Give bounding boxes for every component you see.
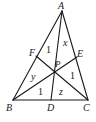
label-c: C: [83, 102, 90, 113]
region-cpe-label: 1: [70, 70, 75, 81]
label-p: P: [54, 59, 61, 69]
label-e: E: [76, 48, 83, 59]
region-afp-label: 1: [46, 44, 51, 55]
region-bfp-label: y: [30, 71, 36, 82]
region-bpd-label: 1: [38, 86, 43, 97]
region-dpc-label: z: [58, 86, 63, 97]
triangle-diagram: A B C D E F P 1 x y 1 z 1: [0, 0, 96, 122]
label-a: A: [57, 0, 65, 11]
label-f: F: [28, 47, 36, 58]
region-ape-label: x: [62, 37, 68, 48]
side-ca: [62, 11, 88, 100]
label-b: B: [6, 102, 12, 113]
label-d: D: [46, 102, 55, 113]
